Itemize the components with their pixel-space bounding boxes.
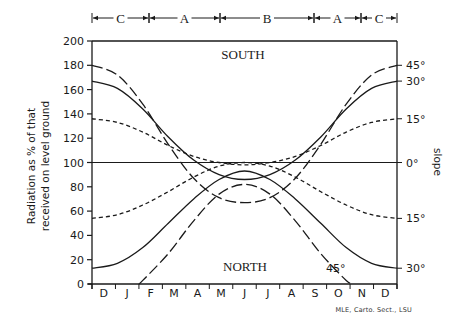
y-tick-label: 100 [63,157,84,170]
right-axis-slope-label: slope [432,148,444,176]
season-band-a: A [149,11,220,26]
y-tick-label: 120 [63,132,84,145]
north-45-inline-label: 45° [326,262,346,275]
slope-label: 15° [406,113,426,126]
month-label: A [288,287,296,300]
curve-south-45 [92,65,397,202]
y-tick-label: 200 [63,35,84,48]
y-tick-label: 160 [63,84,84,97]
y-tick-label: 60 [70,205,84,218]
plot-frame [88,41,397,289]
month-label: A [194,287,202,300]
curve-south-15 [92,119,397,165]
slope-label: 15° [406,212,426,225]
y-tick-label: 140 [63,108,84,121]
season-band-c: C [92,11,149,26]
month-label: S [311,287,318,300]
y-tick-label: 20 [70,254,84,267]
month-label: J [242,287,246,300]
radiation-slope-chart: CABAC 020406080100120140160180200 DJFMAM… [0,0,462,326]
x-axis-months: DJFMAMJJASOND [92,284,397,300]
svg-text:B: B [263,11,272,26]
svg-text:A: A [180,11,190,26]
curve-north-30 [92,171,397,268]
month-label: D [99,287,107,300]
y-tick-label: 0 [77,278,84,291]
svg-text:C: C [375,11,384,26]
slope-label: 0° [406,157,419,170]
svg-text:A: A [333,11,343,26]
y-axis-label-line-1: Radiation as % of that [25,108,37,224]
slope-label: 30° [406,75,426,88]
month-label: D [381,287,389,300]
season-bands: CABAC [92,11,397,26]
season-band-a: A [314,11,361,26]
svg-text:C: C [116,11,125,26]
slope-label: 45° [406,59,426,72]
y-tick-label: 40 [70,229,84,242]
month-label: J [265,287,269,300]
y-axis: 020406080100120140160180200 [63,35,92,291]
month-label: M [216,287,226,300]
series-lines [92,65,397,284]
y-tick-label: 180 [63,59,84,72]
season-band-c: C [361,11,397,26]
slope-label: 30° [406,262,426,275]
month-label: F [147,287,153,300]
y-axis-label-line-2: received on level ground [39,101,51,231]
credit-text: MLE, Carto. Sect., LSU [335,306,412,314]
season-band-b: B [220,11,314,26]
north-region-label: NORTH [223,259,267,274]
month-label: N [358,287,366,300]
month-label: O [334,287,343,300]
month-label: J [125,287,129,300]
south-region-label: SOUTH [221,47,264,62]
month-label: M [169,287,179,300]
y-tick-label: 80 [70,181,84,194]
